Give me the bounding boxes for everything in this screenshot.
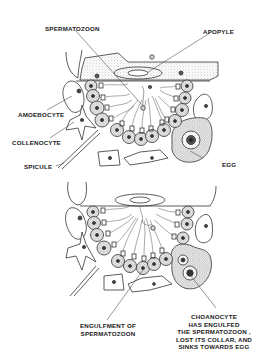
label-amoebocyte: AMOEBOCYTE — [18, 111, 64, 119]
label-spermatozoon: SPERMATOZOON — [45, 25, 100, 33]
bottom-panel — [66, 182, 216, 320]
label-apopyle: APOPYLE — [203, 28, 234, 36]
label-choanocyte-line4: LOST ITS COLLAR, AND — [172, 336, 256, 344]
label-egg: EGG — [222, 161, 236, 169]
label-choanocyte-line2: HAS ENGULFED — [172, 321, 256, 329]
label-choanocyte-line5: SINKS TOWARDS EGG — [172, 343, 256, 351]
choanocytes-left-bottom — [87, 206, 116, 255]
choanocytes-arc-top — [111, 120, 171, 146]
label-collenocyte: COLLENOCYTE — [12, 139, 61, 147]
label-choanocyte-engulfed: CHOANOCYTE HAS ENGULFED THE SPERMATOZOON… — [172, 313, 256, 351]
label-engulfment-line2: SPERMATOZOON — [73, 330, 143, 338]
label-engulfment-line1: ENGULFMENT OF — [73, 322, 143, 330]
choanocytes-right-bottom — [172, 206, 194, 244]
label-choanocyte-line3: THE SPERMATOZOON , — [172, 328, 256, 336]
sponge-fertilization-illustration — [0, 0, 266, 363]
label-engulfment: ENGULFMENT OF SPERMATOZOON — [73, 322, 143, 337]
top-panel — [47, 30, 218, 169]
label-spicule: SPICULE — [24, 163, 52, 171]
choanocytes-arc-bottom — [112, 248, 173, 275]
diagram-stage: SPERMATOZOON APOPYLE AMOEBOCYTE COLLENOC… — [0, 0, 266, 363]
label-choanocyte-line1: CHOANOCYTE — [172, 313, 256, 321]
